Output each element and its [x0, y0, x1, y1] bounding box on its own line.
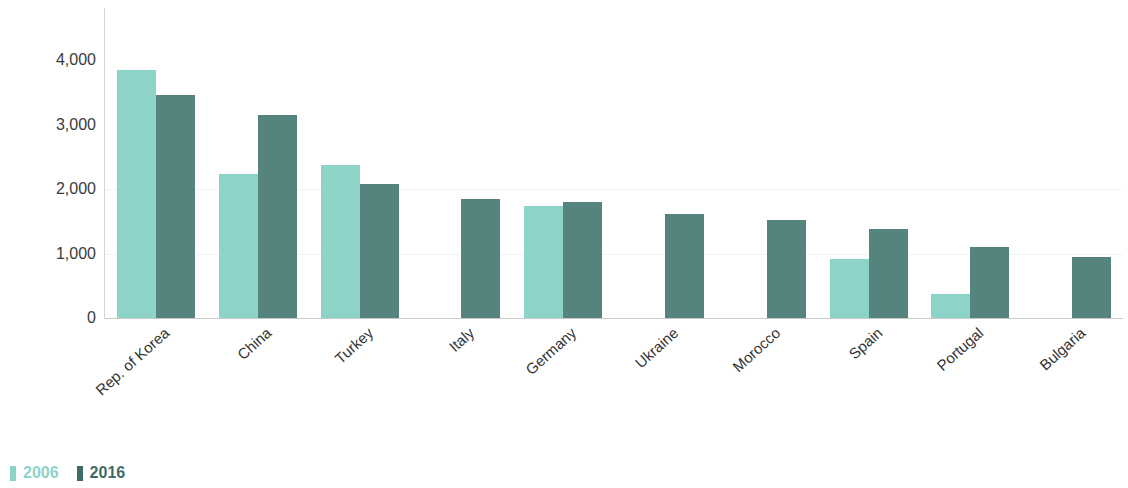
- legend-item-2016[interactable]: 2016: [77, 465, 126, 481]
- x-axis-line: [105, 318, 1123, 319]
- legend-swatch-icon: [10, 466, 16, 481]
- bar-2016-portugal: [970, 247, 1009, 318]
- bar-2006-turkey: [321, 165, 360, 318]
- bar-2006-china: [219, 174, 258, 318]
- bar-2016-italy: [461, 199, 500, 318]
- y-axis-tick-label: 4,000: [0, 52, 96, 68]
- bar-chart: Resident design count 01,0002,0003,0004,…: [0, 0, 1128, 488]
- y-axis-tick-label: 2,000: [0, 181, 96, 197]
- bar-2016-germany: [563, 202, 602, 318]
- bar-2006-spain: [830, 259, 869, 318]
- bar-2006-rep-of-korea: [117, 70, 156, 318]
- bar-2016-turkey: [360, 184, 399, 318]
- bar-2016-morocco: [767, 220, 806, 318]
- chart-legend: 20062016: [10, 462, 125, 484]
- bar-2016-china: [258, 115, 297, 318]
- bars-layer: [105, 8, 1123, 318]
- y-axis-tick-label: 1,000: [0, 246, 96, 262]
- bar-2016-rep-of-korea: [156, 95, 195, 318]
- y-axis-tick-label: 3,000: [0, 117, 96, 133]
- bar-2006-germany: [524, 206, 563, 318]
- y-axis-tick-label: 0: [0, 310, 96, 326]
- legend-item-2006[interactable]: 2006: [10, 465, 59, 481]
- legend-swatch-icon: [77, 466, 83, 481]
- bar-2016-ukraine: [665, 214, 704, 318]
- bar-2006-portugal: [931, 294, 970, 318]
- legend-label: 2006: [23, 465, 59, 481]
- bar-2016-spain: [869, 229, 908, 318]
- bar-2016-bulgaria: [1072, 257, 1111, 318]
- legend-label: 2016: [90, 465, 126, 481]
